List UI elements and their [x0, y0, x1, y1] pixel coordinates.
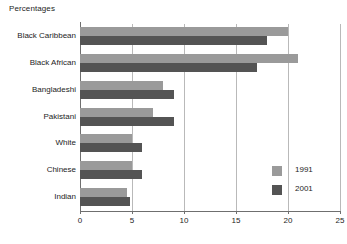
x-axis-tick [80, 211, 81, 214]
category-label: Pakistani [2, 112, 76, 121]
bar [80, 134, 132, 143]
gridline [288, 24, 289, 211]
bar [80, 188, 127, 197]
bar-chart: Percentages Black CaribbeanBlack African… [0, 0, 347, 244]
bar [80, 170, 142, 179]
plot-area [80, 24, 340, 211]
x-axis-tick-label: 25 [336, 216, 345, 225]
x-axis-tick [288, 211, 289, 214]
bar [80, 161, 132, 170]
legend-swatch [272, 185, 282, 195]
bar [80, 36, 267, 45]
x-axis-tick-label: 0 [78, 216, 82, 225]
x-axis-tick [340, 211, 341, 214]
category-label: Chinese [2, 165, 76, 174]
x-axis-tick-label: 10 [180, 216, 189, 225]
x-axis-tick [236, 211, 237, 214]
category-label: White [2, 138, 76, 147]
x-axis-line [80, 211, 341, 212]
category-label: Indian [2, 192, 76, 201]
gridline [184, 24, 185, 211]
chart-title: Percentages [9, 4, 55, 13]
bar [80, 143, 142, 152]
legend-swatch [272, 166, 282, 176]
category-label: Bangladeshi [2, 85, 76, 94]
x-axis-tick-label: 20 [284, 216, 293, 225]
bar [80, 108, 153, 117]
x-axis-tick [132, 211, 133, 214]
bar [80, 197, 130, 206]
bar [80, 27, 288, 36]
x-axis-tick [184, 211, 185, 214]
category-axis-labels: Black CaribbeanBlack AfricanBangladeshiP… [0, 24, 76, 211]
bar [80, 54, 298, 63]
bar [80, 117, 174, 126]
bar [80, 90, 174, 99]
legend-label: 1991 [295, 165, 313, 174]
category-label: Black Caribbean [2, 31, 76, 40]
gridline [236, 24, 237, 211]
bar [80, 81, 163, 90]
category-label: Black African [2, 58, 76, 67]
x-axis-tick-label: 5 [130, 216, 134, 225]
legend-label: 2001 [295, 184, 313, 193]
x-axis-tick-label: 15 [232, 216, 241, 225]
gridline [340, 24, 341, 211]
bar [80, 63, 257, 72]
